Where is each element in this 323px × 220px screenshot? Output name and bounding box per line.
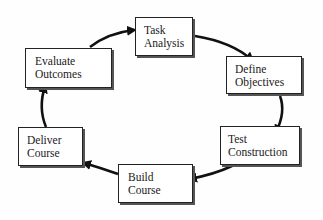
- node-evaluate-outcomes: Evaluate Outcomes: [25, 48, 112, 88]
- node-task-analysis: Task Analysis: [135, 17, 193, 56]
- arrow-build-to-deliver: [84, 163, 118, 174]
- node-label-line2: Course: [27, 147, 82, 160]
- node-label-line1: Deliver: [27, 134, 82, 147]
- node-label-line1: Build: [128, 171, 192, 184]
- node-label-line2: Analysis: [144, 37, 192, 50]
- arrow-evaluate-to-task: [90, 30, 134, 47]
- node-label-line1: Define: [235, 63, 301, 76]
- node-build-course: Build Course: [118, 164, 193, 203]
- arrow-test-to-build: [190, 166, 232, 179]
- node-deliver-course: Deliver Course: [18, 127, 83, 166]
- node-label-line2: Outcomes: [35, 68, 111, 81]
- node-define-objectives: Define Objectives: [226, 56, 302, 94]
- cycle-diagram: Task Analysis Define Objectives Test Con…: [0, 0, 323, 220]
- node-label-line1: Evaluate: [35, 55, 111, 68]
- node-label-line2: Construction: [228, 146, 299, 159]
- node-test-construction: Test Construction: [220, 126, 300, 165]
- node-label-line2: Objectives: [235, 76, 301, 89]
- node-label-line2: Course: [128, 184, 192, 197]
- node-label-line1: Task: [144, 24, 192, 37]
- arrow-deliver-to-evaluate: [42, 86, 46, 127]
- node-label-line1: Test: [228, 133, 299, 146]
